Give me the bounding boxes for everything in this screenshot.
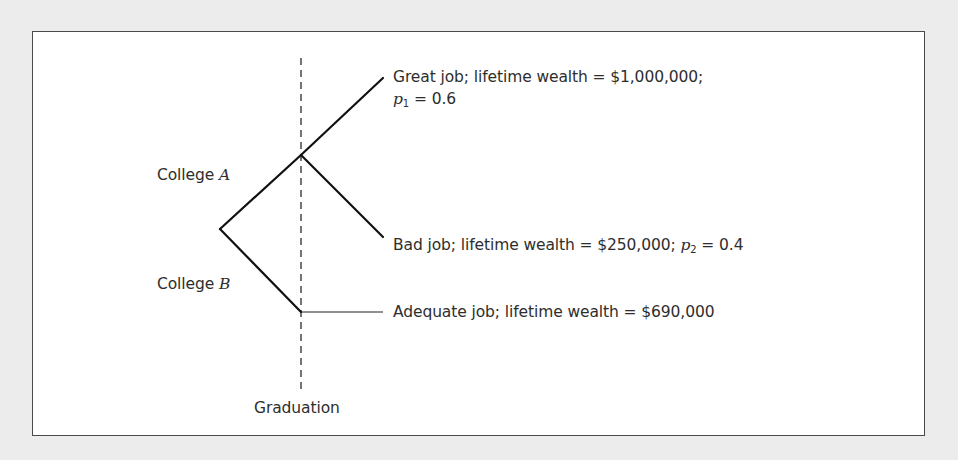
college-prefix: College: [157, 166, 219, 184]
adequate-job-text: Adequate job; lifetime wealth = $690,000: [393, 303, 714, 321]
great-job-text: Great job; lifetime wealth = $1,000,000;: [393, 68, 703, 86]
prob-value: = 0.6: [409, 90, 456, 108]
prob-variable: p: [393, 90, 403, 108]
college-letter: A: [219, 166, 230, 184]
outcome-bad-job-label: Bad job; lifetime wealth = $250,000; p2 …: [393, 235, 743, 260]
outcome-adequate-job-label: Adequate job; lifetime wealth = $690,000: [393, 302, 714, 322]
outcome-great-job-line: [301, 78, 383, 155]
college-a-label: College A: [157, 165, 230, 185]
graduation-text: Graduation: [254, 399, 340, 417]
branch-college-b: [220, 229, 301, 312]
outcome-great-job-probability: p1 = 0.6: [393, 89, 456, 114]
outcome-great-job-label: Great job; lifetime wealth = $1,000,000;: [393, 67, 703, 87]
college-letter: B: [219, 275, 230, 293]
college-b-label: College B: [157, 274, 230, 294]
graduation-label: Graduation: [254, 398, 340, 418]
outcome-bad-job-line: [301, 155, 383, 237]
bad-job-text: Bad job; lifetime wealth = $250,000;: [393, 236, 680, 254]
college-prefix: College: [157, 275, 219, 293]
branch-college-a: [220, 155, 301, 229]
prob-value: = 0.4: [697, 236, 744, 254]
prob-variable: p: [680, 236, 690, 254]
